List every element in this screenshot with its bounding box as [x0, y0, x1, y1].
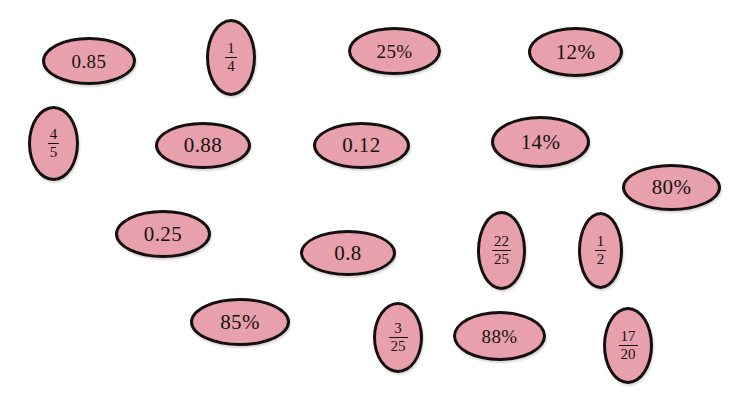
oval-label: 0.8 — [334, 243, 361, 264]
oval-1-4[interactable]: 14 — [206, 19, 256, 96]
fraction-label: 2225 — [492, 234, 511, 267]
fraction-label: 45 — [48, 127, 60, 160]
oval-88-pct[interactable]: 88% — [453, 311, 546, 361]
fraction-label: 12 — [595, 234, 607, 267]
oval-label: 80% — [652, 177, 692, 198]
oval-25-pct[interactable]: 25% — [348, 27, 441, 75]
oval-0-25[interactable]: 0.25 — [115, 210, 211, 258]
fraction-numerator: 17 — [619, 329, 638, 345]
worksheet-canvas: 0.851425%12%450.880.1214%80%0.250.822251… — [0, 0, 739, 406]
oval-3-25[interactable]: 325 — [373, 302, 423, 373]
fraction-numerator: 3 — [392, 321, 404, 337]
oval-0-12[interactable]: 0.12 — [313, 122, 410, 169]
oval-label: 0.25 — [144, 224, 182, 245]
fraction-numerator: 1 — [225, 41, 237, 57]
oval-0-88[interactable]: 0.88 — [155, 122, 251, 169]
fraction-denominator: 25 — [389, 337, 408, 354]
fraction-label: 1720 — [619, 329, 638, 362]
oval-label: 0.12 — [342, 135, 380, 156]
oval-label: 14% — [521, 132, 561, 153]
oval-80-pct[interactable]: 80% — [622, 164, 721, 211]
fraction-numerator: 4 — [48, 127, 60, 143]
oval-22-25[interactable]: 2225 — [477, 211, 526, 290]
oval-label: 88% — [481, 327, 517, 346]
oval-label: 0.85 — [72, 52, 107, 71]
fraction-denominator: 5 — [48, 143, 60, 160]
oval-label: 25% — [376, 42, 412, 61]
oval-0-8[interactable]: 0.8 — [300, 230, 396, 276]
fraction-label: 14 — [225, 41, 237, 74]
fraction-numerator: 22 — [492, 234, 511, 250]
oval-12-pct[interactable]: 12% — [528, 27, 623, 77]
fraction-denominator: 25 — [492, 250, 511, 267]
oval-4-5[interactable]: 45 — [28, 106, 79, 181]
fraction-numerator: 1 — [595, 234, 607, 250]
oval-14-pct[interactable]: 14% — [491, 116, 590, 168]
oval-0-85[interactable]: 0.85 — [42, 37, 136, 85]
oval-1-2[interactable]: 12 — [578, 212, 623, 289]
fraction-label: 325 — [389, 321, 408, 354]
oval-label: 0.88 — [184, 135, 222, 156]
oval-label: 85% — [220, 312, 260, 333]
oval-17-20[interactable]: 1720 — [603, 307, 653, 384]
fraction-denominator: 4 — [225, 57, 237, 74]
oval-85-pct[interactable]: 85% — [190, 298, 290, 346]
fraction-denominator: 2 — [595, 250, 607, 267]
oval-label: 12% — [556, 42, 596, 63]
fraction-denominator: 20 — [619, 345, 638, 362]
